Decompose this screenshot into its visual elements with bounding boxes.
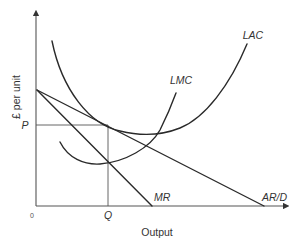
mr-label: MR — [154, 191, 171, 203]
origin-label: 0 — [30, 212, 34, 219]
y-axis-label: £ per unit — [10, 75, 22, 119]
quantity-label: Q — [104, 209, 112, 221]
mr-curve — [37, 90, 152, 206]
lmc-label: LMC — [170, 74, 193, 86]
lmc-curve — [60, 93, 176, 164]
x-axis-label: Output — [141, 226, 173, 238]
monopolistic-competition-diagram: £ per unit Output 0 P Q LAC LMC MR AR/D — [0, 0, 295, 249]
ar-demand-curve — [37, 90, 264, 206]
lac-label: LAC — [243, 29, 264, 41]
price-label: P — [21, 119, 28, 131]
ar-demand-label: AR/D — [261, 191, 288, 203]
lac-curve — [52, 41, 247, 134]
